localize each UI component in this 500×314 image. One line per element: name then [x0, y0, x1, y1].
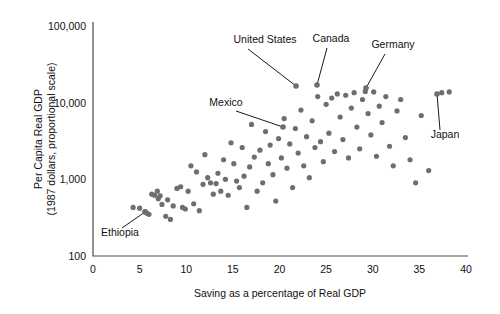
data-point: [298, 108, 303, 113]
data-point: [340, 137, 345, 142]
data-point: [419, 113, 424, 118]
x-tick-label: 5: [137, 263, 143, 275]
annotation-leader-line: [248, 49, 296, 86]
data-point: [241, 174, 246, 179]
data-point: [218, 189, 223, 194]
data-point: [171, 203, 176, 208]
data-point: [240, 145, 245, 150]
data-point: [191, 201, 196, 206]
data-point: [310, 118, 315, 123]
data-point: [290, 185, 295, 190]
data-point: [307, 175, 312, 180]
y-tick-label: 10,000: [54, 97, 86, 109]
y-axis-title-line-2: (1987 dollars, proportional scale): [45, 63, 57, 216]
x-tick-label: 20: [274, 263, 286, 275]
data-point: [228, 140, 233, 145]
data-points-group: [131, 89, 452, 222]
data-point: [284, 166, 289, 171]
data-point: [186, 189, 191, 194]
data-point: [326, 131, 331, 136]
data-point: [273, 199, 278, 204]
data-point: [194, 169, 199, 174]
annotated-data-point: [363, 85, 369, 91]
data-point: [329, 95, 334, 100]
data-point: [226, 193, 231, 198]
data-point: [183, 206, 188, 211]
data-point: [215, 171, 220, 176]
data-point: [257, 148, 262, 153]
x-tick-label: 0: [90, 263, 96, 275]
data-point: [131, 205, 136, 210]
annotation-label: Mexico: [209, 96, 242, 108]
x-tick-label: 30: [367, 263, 379, 275]
data-point: [321, 159, 326, 164]
annotation-leader-line: [437, 94, 440, 130]
data-point: [335, 91, 340, 96]
data-point: [346, 155, 351, 160]
data-point: [293, 126, 298, 131]
data-point: [403, 135, 408, 140]
data-point: [338, 114, 343, 119]
data-point: [304, 134, 309, 139]
data-point: [252, 155, 257, 160]
data-point: [447, 89, 452, 94]
data-point: [158, 193, 163, 198]
data-point: [234, 178, 239, 183]
data-point: [391, 163, 396, 168]
data-point: [426, 168, 431, 173]
data-point: [301, 163, 306, 168]
data-point: [260, 180, 265, 185]
data-point: [159, 202, 164, 207]
data-point: [318, 139, 323, 144]
data-point: [244, 205, 249, 210]
scatter-plot-figure: 1001,00010,000100,000 0510152025303540 U…: [0, 0, 500, 314]
data-point: [365, 111, 370, 116]
data-point: [387, 144, 392, 149]
data-point: [255, 189, 260, 194]
data-point: [332, 149, 337, 154]
x-axis-tick-labels: 0510152025303540: [90, 263, 472, 275]
data-point: [270, 172, 275, 177]
data-point: [312, 145, 317, 150]
data-point: [249, 122, 254, 127]
data-point: [237, 185, 242, 190]
data-point: [188, 163, 193, 168]
data-point: [247, 164, 252, 169]
data-point: [208, 180, 213, 185]
data-point: [296, 150, 301, 155]
data-point: [352, 90, 357, 95]
x-tick-label: 40: [460, 263, 472, 275]
annotated-data-point: [314, 82, 320, 88]
x-tick-label: 35: [414, 263, 426, 275]
data-point: [163, 214, 168, 219]
annotation-labels: United StatesCanadaGermanyJapanMexicoEth…: [101, 32, 459, 238]
data-point: [282, 116, 287, 121]
data-point: [165, 197, 170, 202]
annotation-leader-line: [317, 48, 327, 85]
data-point: [343, 93, 348, 98]
data-point: [202, 152, 207, 157]
x-tick-label: 15: [227, 263, 239, 275]
data-point: [407, 157, 412, 162]
data-point: [213, 181, 218, 186]
data-point: [155, 189, 160, 194]
data-point: [398, 97, 403, 102]
data-point: [439, 90, 444, 95]
data-point: [205, 175, 210, 180]
data-point: [383, 94, 388, 99]
data-point: [223, 177, 228, 182]
data-point: [178, 184, 183, 189]
annotated-data-point: [142, 209, 148, 215]
annotated-data-point: [280, 124, 286, 130]
data-point: [276, 136, 281, 141]
data-point: [357, 146, 362, 151]
plot-canvas: 1001,00010,000100,000 0510152025303540 U…: [0, 0, 500, 314]
data-point: [168, 217, 173, 222]
data-point: [279, 155, 284, 160]
data-point: [349, 105, 354, 110]
data-point: [200, 182, 205, 187]
data-point: [268, 142, 273, 147]
data-point: [287, 141, 292, 146]
y-tick-label: 1,000: [60, 173, 86, 185]
data-point: [413, 180, 418, 185]
